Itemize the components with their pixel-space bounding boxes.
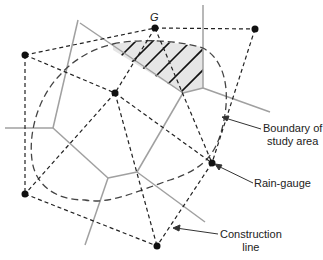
gauge-left <box>22 52 29 59</box>
gauge-bottom <box>154 243 161 250</box>
gauge-g-label: G <box>150 11 159 24</box>
construction-label-line1: Construction <box>220 228 282 241</box>
hatched-region <box>113 36 215 95</box>
construction-label-line2: line <box>220 241 282 254</box>
boundary-label: Boundary of study area <box>263 122 322 148</box>
boundary-label-line2: study area <box>263 135 322 148</box>
construction-line-label: Construction line <box>220 228 282 254</box>
rain-gauge-label: Rain-gauge <box>254 177 311 190</box>
gauge-right <box>209 160 216 167</box>
gauge-center <box>112 90 119 97</box>
gauge-bottom-left <box>22 191 29 198</box>
leader-lines <box>173 116 261 234</box>
gauge-top-right <box>252 26 259 33</box>
gauge-G <box>152 25 159 32</box>
boundary-label-line1: Boundary of <box>263 122 322 135</box>
